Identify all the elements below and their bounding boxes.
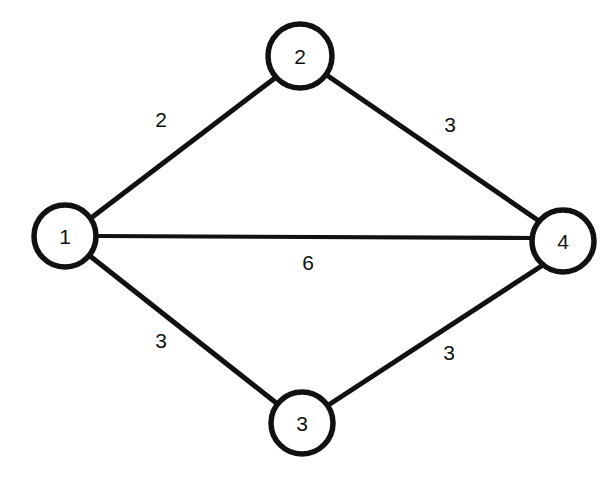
edge-weight-1-3: 3: [155, 330, 167, 351]
node-label-3: 3: [296, 413, 308, 434]
node-label-4: 4: [557, 231, 569, 252]
node-label-1: 1: [59, 226, 71, 247]
edge-2-4: [328, 76, 539, 221]
graph-svg-layer: [0, 0, 615, 479]
edge-1-4: [95, 236, 532, 238]
edge-1-2: [91, 78, 275, 218]
edge-1-3: [90, 256, 275, 402]
edge-weight-1-4: 6: [302, 252, 314, 273]
edge-weight-3-4: 3: [443, 342, 455, 363]
edge-3-4: [330, 265, 543, 404]
edge-weight-1-2: 2: [155, 109, 167, 130]
edge-weight-2-4: 3: [444, 114, 456, 135]
graph-diagram: 1 2 3 4 2 3 6 3 3: [0, 0, 615, 479]
node-label-2: 2: [294, 46, 306, 67]
